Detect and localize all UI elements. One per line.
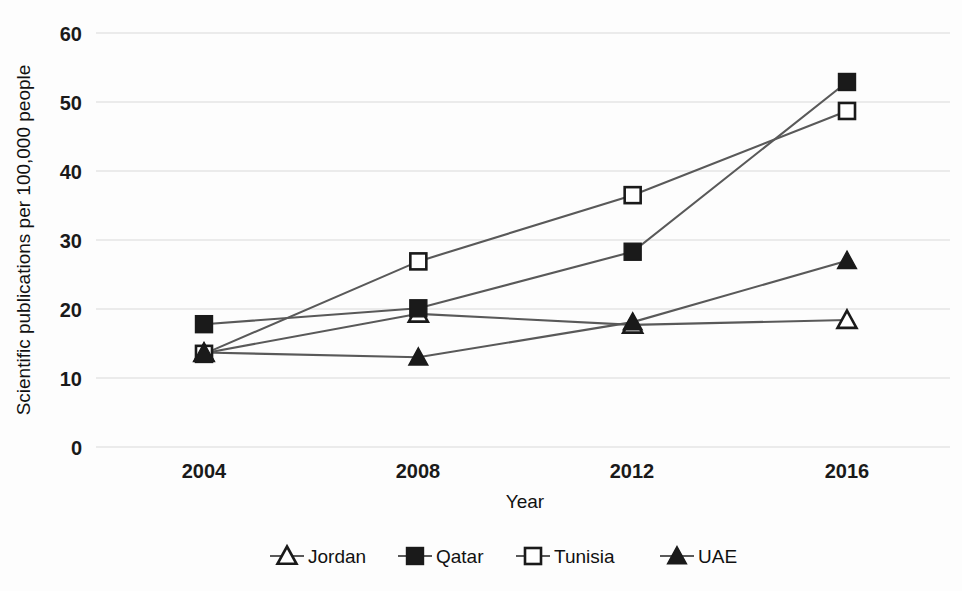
y-tick-label-60: 60 — [60, 23, 82, 45]
y-axis-tick-labels: 60 50 40 30 20 10 0 — [60, 23, 82, 459]
y-tick-label-30: 30 — [60, 230, 82, 252]
y-axis-title: Scientific publications per 100,000 peop… — [13, 65, 34, 416]
y-tick-label-50: 50 — [60, 92, 82, 114]
legend-item-tunisia[interactable]: Tunisia — [516, 546, 615, 567]
legend-item-qatar[interactable]: Qatar — [398, 546, 484, 567]
gridlines — [96, 33, 950, 447]
markers-qatar — [196, 73, 856, 332]
chart-legend: JordanQatarTunisiaUAE — [270, 546, 737, 567]
line-chart-figure: 60 50 40 30 20 10 0 Scientific publicati… — [0, 0, 962, 591]
markers-jordan — [195, 304, 857, 361]
legend-label-uae: UAE — [698, 546, 737, 567]
legend-item-jordan[interactable]: Jordan — [270, 546, 366, 567]
data-point-qatar-2016 — [839, 73, 856, 90]
y-tick-label-10: 10 — [60, 368, 82, 390]
y-tick-label-20: 20 — [60, 299, 82, 321]
data-point-qatar-2004 — [196, 316, 213, 333]
data-point-qatar-2012 — [624, 243, 641, 260]
data-point-tunisia-2012 — [625, 187, 641, 203]
x-tick-label-2008: 2008 — [396, 460, 441, 482]
legend-marker-qatar — [407, 548, 424, 565]
x-axis-title: Year — [506, 491, 545, 512]
data-point-tunisia-2008 — [410, 253, 426, 269]
y-tick-label-0: 0 — [71, 437, 82, 459]
data-point-qatar-2008 — [410, 300, 427, 317]
legend-item-uae[interactable]: UAE — [660, 546, 737, 567]
markers-uae — [195, 251, 857, 365]
y-tick-label-40: 40 — [60, 161, 82, 183]
data-point-uae-2016 — [838, 251, 857, 268]
x-tick-label-2004: 2004 — [182, 460, 227, 482]
series-line-jordan — [204, 314, 847, 353]
chart-canvas: 60 50 40 30 20 10 0 Scientific publicati… — [0, 0, 962, 591]
series-jordan — [204, 314, 847, 353]
x-axis-tick-labels: 2004 2008 2012 2016 — [182, 460, 870, 482]
x-tick-label-2016: 2016 — [825, 460, 870, 482]
legend-label-tunisia: Tunisia — [554, 546, 615, 567]
legend-label-qatar: Qatar — [436, 546, 484, 567]
x-tick-label-2012: 2012 — [610, 460, 655, 482]
series-layer — [195, 73, 857, 365]
legend-marker-tunisia — [525, 548, 541, 564]
data-point-tunisia-2016 — [839, 103, 855, 119]
legend-label-jordan: Jordan — [308, 546, 366, 567]
